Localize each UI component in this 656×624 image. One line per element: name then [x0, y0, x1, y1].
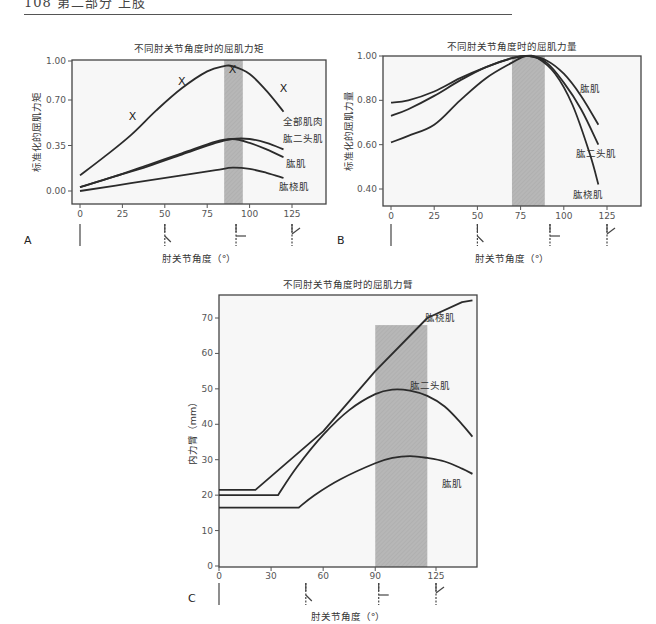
- chart-panel-a: 不同肘关节角度时的屈肌力矩0.000.350.701.0002550751001…: [24, 43, 326, 264]
- elbow-angle-icon: [236, 224, 246, 246]
- x-tick-label: 0: [388, 211, 394, 221]
- series-label: 肱桡肌: [573, 189, 603, 200]
- panel-letter: B: [337, 234, 345, 247]
- y-tick-label: 60: [202, 348, 214, 358]
- x-tick-label: 60: [317, 571, 329, 581]
- y-tick-label: 0: [207, 561, 213, 571]
- y-tick-label: 0.35: [46, 141, 66, 151]
- elbow-angle-icon: [477, 224, 483, 246]
- y-axis-label: 标准化的屈肌力量: [343, 91, 354, 171]
- x-tick-label: 25: [428, 211, 439, 221]
- shaded-optimal-range: [512, 56, 545, 206]
- x-tick-label: 50: [472, 211, 484, 221]
- y-axis-label: 标准化的屈肌力矩: [31, 92, 42, 172]
- elbow-angle-icon: [436, 583, 444, 605]
- y-tick-label: 0.80: [357, 95, 377, 105]
- series-label: 全部肌肉: [283, 116, 323, 127]
- chart-panel-c: 不同肘关节角度时的屈肌力臂0102030405060700306090125内力…: [187, 279, 477, 622]
- x-tick-label: 50: [159, 209, 171, 219]
- plot-area: [219, 295, 477, 567]
- shaded-optimal-range: [224, 60, 243, 204]
- panel-letter: A: [24, 234, 32, 247]
- x-axis-label: 肘关节角度（°）: [475, 253, 550, 264]
- y-tick-label: 1.00: [357, 51, 377, 61]
- y-tick-label: 0.70: [46, 95, 66, 105]
- series-label: 肱二头肌: [576, 148, 616, 159]
- data-marker-x: X: [178, 75, 186, 88]
- chart-title: 不同肘关节角度时的屈肌力量: [447, 41, 577, 52]
- x-tick-label: 25: [117, 209, 128, 219]
- x-tick-label: 0: [216, 571, 222, 581]
- series-label: 肱二头肌: [410, 380, 450, 391]
- data-marker-x: X: [280, 82, 288, 95]
- chart-title: 不同肘关节角度时的屈肌力矩: [134, 43, 264, 54]
- y-tick-label: 0.00: [46, 186, 66, 196]
- series-label: 肱肌: [442, 478, 462, 489]
- series-label: 肱桡肌: [425, 312, 455, 323]
- y-tick-label: 50: [202, 384, 214, 394]
- x-tick-label: 75: [515, 211, 526, 221]
- x-tick-label: 30: [265, 571, 277, 581]
- y-tick-label: 70: [202, 313, 214, 323]
- y-tick-label: 10: [202, 526, 214, 536]
- figure-canvas: 不同肘关节角度时的屈肌力矩0.000.350.701.0002550751001…: [0, 0, 656, 624]
- elbow-angle-icon: [165, 224, 171, 246]
- series-label: 肱桡肌: [279, 181, 309, 192]
- elbow-angle-icon: [550, 224, 560, 246]
- y-axis-label: 内力臂（mm）: [187, 397, 198, 466]
- x-tick-label: 75: [201, 209, 212, 219]
- x-tick-label: 90: [370, 571, 382, 581]
- elbow-angle-icon: [607, 224, 615, 246]
- y-tick-label: 0.40: [357, 184, 377, 194]
- x-tick-label: 125: [427, 571, 444, 581]
- x-axis-label: 肘关节角度（°）: [162, 253, 237, 264]
- data-marker-x: X: [129, 110, 137, 123]
- y-tick-label: 30: [202, 455, 214, 465]
- shaded-optimal-range: [375, 325, 427, 567]
- elbow-angle-icon: [379, 583, 389, 605]
- series-label: 肱肌: [286, 158, 306, 169]
- y-tick-label: 0.60: [357, 140, 377, 150]
- x-tick-label: 0: [77, 209, 83, 219]
- series-label: 肱肌: [580, 83, 600, 94]
- elbow-angle-icon: [292, 224, 300, 246]
- y-tick-label: 1.00: [46, 56, 66, 66]
- chart-title: 不同肘关节角度时的屈肌力臂: [283, 279, 413, 290]
- y-tick-label: 20: [202, 490, 214, 500]
- x-tick-label: 125: [283, 209, 300, 219]
- y-tick-label: 40: [202, 419, 214, 429]
- data-marker-x: X: [229, 63, 237, 76]
- x-tick-label: 100: [555, 211, 572, 221]
- x-axis-label: 肘关节角度（°）: [311, 611, 386, 622]
- x-tick-label: 125: [598, 211, 615, 221]
- elbow-angle-icon: [306, 583, 312, 605]
- panel-letter: C: [188, 592, 196, 605]
- series-label: 肱二头肌: [283, 133, 323, 144]
- chart-panel-b: 不同肘关节角度时的屈肌力量0.400.600.801.0002550751001…: [337, 41, 641, 264]
- x-tick-label: 100: [241, 209, 258, 219]
